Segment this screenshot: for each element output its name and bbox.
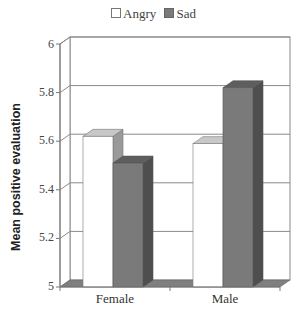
legend: Angry Sad <box>0 6 307 22</box>
legend-swatch-angry <box>111 8 121 18</box>
x-tick-label-male: Male <box>185 291 265 307</box>
side-wall <box>60 37 70 287</box>
x-tick-label-female: Female <box>75 291 155 307</box>
y-tick-label: 5.8 <box>30 85 54 100</box>
legend-label-angry: Angry <box>123 6 156 21</box>
y-tick-label: 5.6 <box>30 133 54 148</box>
y-axis-label: Mean positive evaluation <box>9 87 23 267</box>
y-tick-label: 5.4 <box>30 182 54 197</box>
bar-sad-female <box>113 156 153 287</box>
legend-swatch-sad <box>164 8 174 18</box>
legend-label-sad: Sad <box>176 6 196 21</box>
y-tick-label: 5.2 <box>30 230 54 245</box>
y-tick-label: 5 <box>30 279 54 294</box>
y-tick-label: 6 <box>30 37 54 52</box>
bar-sad-male <box>223 81 263 287</box>
